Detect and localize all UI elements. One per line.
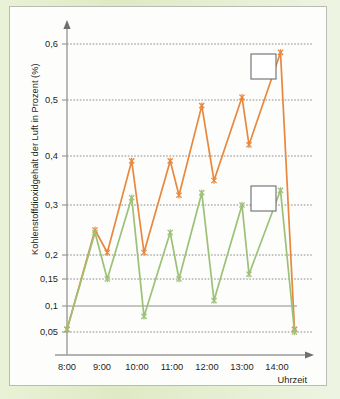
data-point <box>211 297 216 303</box>
y-label-0-05: 0,05 <box>40 327 58 337</box>
data-point <box>168 229 173 235</box>
data-point <box>168 158 173 164</box>
x-axis-arrowhead <box>305 351 314 358</box>
data-point <box>199 190 204 196</box>
data-point <box>239 94 244 100</box>
x-label-13: 13:00 <box>230 362 253 372</box>
y-tick-labels: 0,6 0,5 0,4 0,3 0,2 0,15 0,1 0,05 <box>40 39 58 337</box>
y-label-0-2: 0,2 <box>45 250 58 260</box>
y-label-0-4: 0,4 <box>45 151 58 161</box>
data-point <box>105 249 110 255</box>
x-label-8: 8:00 <box>58 362 76 372</box>
x-tick-labels: 8:00 9:00 10:00 11:00 12:00 13:00 14:00 <box>58 362 289 372</box>
legend-box-upper[interactable] <box>251 54 276 79</box>
y-label-0-1: 0,1 <box>45 301 58 311</box>
data-point <box>246 271 251 277</box>
y-axis-title: Kohlenstoffdioxidgehalt der Luft in Proz… <box>30 63 40 255</box>
x-label-11: 11:00 <box>161 362 184 372</box>
legend-boxes <box>251 54 276 211</box>
x-label-12: 12:00 <box>195 362 218 372</box>
data-point <box>211 177 216 183</box>
data-point <box>176 192 181 198</box>
y-label-0-3: 0,3 <box>45 200 58 210</box>
y-label-0-6: 0,6 <box>45 39 58 49</box>
x-label-9: 9:00 <box>93 362 111 372</box>
data-point <box>199 102 204 108</box>
chart-svg: 0,6 0,5 0,4 0,3 0,2 0,15 0,1 0,05 8:00 9… <box>10 7 328 387</box>
x-axis-title: Uhrzeit <box>278 375 308 385</box>
data-point <box>278 187 283 193</box>
data-point <box>129 158 134 164</box>
data-point <box>64 326 69 332</box>
page-background: 0,6 0,5 0,4 0,3 0,2 0,15 0,1 0,05 8:00 9… <box>0 0 340 399</box>
data-point <box>141 249 146 255</box>
data-point <box>278 49 283 55</box>
y-label-0-15: 0,15 <box>40 274 58 284</box>
data-point <box>141 313 146 319</box>
x-label-14: 14:00 <box>265 362 288 372</box>
y-axis-arrowhead <box>63 20 70 29</box>
y-label-0-5: 0,5 <box>45 95 58 105</box>
figure-plate: 0,6 0,5 0,4 0,3 0,2 0,15 0,1 0,05 8:00 9… <box>9 6 327 386</box>
x-label-10: 10:00 <box>125 362 148 372</box>
data-point <box>246 142 251 148</box>
legend-box-lower[interactable] <box>251 186 276 211</box>
chart-figure: 0,6 0,5 0,4 0,3 0,2 0,15 0,1 0,05 8:00 9… <box>10 7 328 387</box>
data-point <box>129 195 134 201</box>
